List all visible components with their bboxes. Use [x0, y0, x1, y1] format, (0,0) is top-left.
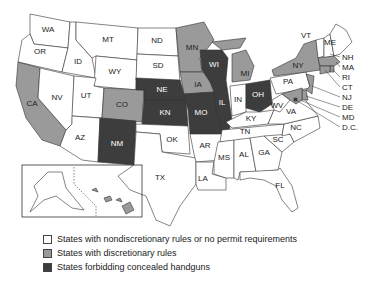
state-label-WA: WA [42, 25, 55, 34]
state-label-NV: NV [51, 93, 63, 102]
state-label-OH: OH [252, 90, 264, 99]
state-label-VA: VA [286, 107, 297, 116]
state-label-TX: TX [155, 173, 166, 182]
state-label-IL: IL [219, 98, 226, 107]
callout-label-ma: MA [342, 63, 355, 72]
legend-label: States forbidding concealed handguns [57, 262, 210, 272]
state-label-ME: ME [324, 38, 336, 47]
legend-item-discretionary: States with discretionary rules [43, 246, 297, 260]
state-label-AR: AR [199, 141, 210, 150]
state-label-UT: UT [81, 91, 92, 100]
state-label-MS: MS [218, 153, 230, 162]
callout-label-md: MD [342, 113, 355, 122]
state-label-MI: MI [241, 69, 250, 78]
state-label-NC: NC [290, 123, 302, 132]
state-FL [240, 168, 298, 212]
state-label-AZ: AZ [75, 133, 85, 142]
state-label-MN: MN [186, 43, 199, 52]
state-AK [30, 172, 84, 212]
callout-label-nj: NJ [342, 93, 352, 102]
state-label-FL: FL [275, 181, 285, 190]
state-label-MO: MO [195, 108, 208, 117]
state-label-TN: TN [240, 127, 251, 136]
state-DE [302, 90, 308, 100]
state-MA [318, 56, 340, 66]
state-label-ND: ND [151, 36, 163, 45]
state-label-PA: PA [283, 77, 294, 86]
state-label-NM: NM [111, 139, 124, 148]
swatch-nondiscretionary [43, 235, 52, 244]
swatch-discretionary [43, 249, 52, 258]
callout-label-de: DE [342, 103, 353, 112]
inset-divider [74, 167, 96, 217]
state-NY [272, 40, 320, 76]
state-label-WY: WY [109, 67, 123, 76]
swatch-forbidding [43, 263, 52, 272]
state-label-WV: WV [271, 101, 285, 110]
legend-item-forbidding: States forbidding concealed handguns [43, 260, 297, 274]
callout-line [325, 70, 340, 87]
legend-label: States with nondiscretionary rules or no… [57, 234, 297, 244]
state-label-NE: NE [156, 85, 167, 94]
legend-item-nondiscretionary: States with nondiscretionary rules or no… [43, 232, 297, 246]
state-label-ID: ID [74, 57, 82, 66]
legend-label: States with discretionary rules [57, 248, 177, 258]
state-label-GA: GA [258, 148, 270, 157]
state-label-SC: SC [272, 135, 283, 144]
state-label-OR: OR [34, 47, 46, 56]
state-label-LA: LA [198, 174, 208, 183]
state-label-WI: WI [209, 60, 219, 69]
state-label-OK: OK [166, 135, 178, 144]
state-label-CA: CA [26, 99, 38, 108]
state-label-AL: AL [239, 150, 249, 159]
callout-line [332, 69, 340, 77]
callout-label-ri: RI [342, 73, 350, 82]
callout-label-nh: NH [342, 53, 354, 62]
callout-label-dc.: D.C. [342, 123, 358, 132]
state-label-SD: SD [152, 61, 163, 70]
state-label-KN: KN [159, 108, 170, 117]
callout-label-ct: CT [342, 83, 353, 92]
state-label-MT: MT [102, 35, 114, 44]
legend: States with nondiscretionary rules or no… [43, 232, 297, 274]
state-label-KY: KY [246, 114, 257, 123]
state-label-IA: IA [194, 80, 202, 89]
state-label-NY: NY [292, 61, 304, 70]
state-label-VT: VT [301, 31, 311, 40]
callout-line [312, 86, 340, 97]
callout-line [306, 96, 340, 107]
state-label-IN: IN [234, 95, 242, 104]
state-HI [92, 188, 134, 214]
state-label-CO: CO [116, 100, 128, 109]
